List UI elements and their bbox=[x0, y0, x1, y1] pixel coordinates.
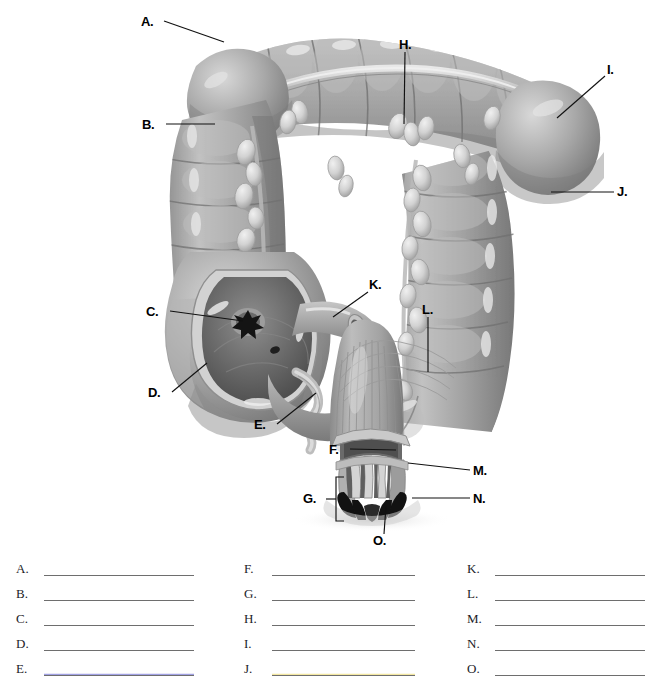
callout-label-F: F. bbox=[329, 443, 339, 456]
answer-letter-F: F. bbox=[244, 562, 253, 576]
answer-blank-M[interactable] bbox=[495, 625, 645, 626]
callout-label-K: K. bbox=[369, 278, 381, 291]
callout-label-G: G. bbox=[303, 492, 316, 505]
callout-label-A: A. bbox=[141, 15, 153, 28]
leader-M bbox=[408, 463, 470, 470]
answer-blank-B[interactable] bbox=[44, 600, 194, 601]
answer-row-E: E. bbox=[10, 662, 220, 687]
cecum bbox=[165, 252, 331, 438]
answer-blank-H[interactable] bbox=[272, 625, 415, 626]
answer-blank-E[interactable] bbox=[44, 675, 194, 676]
worksheet-page: A. B. C. D. E. F. G. H. I. J. K. L. M. N… bbox=[0, 0, 658, 694]
answer-column-2: F. G. H. I. J. bbox=[238, 552, 448, 694]
answer-blank-I[interactable] bbox=[272, 650, 415, 651]
answer-blank-G[interactable] bbox=[272, 600, 415, 601]
answer-letter-K: K. bbox=[467, 562, 480, 576]
answer-letter-H: H. bbox=[244, 612, 257, 626]
callout-label-C: C. bbox=[146, 305, 158, 318]
answer-blank-C[interactable] bbox=[44, 625, 194, 626]
answer-row-O: O. bbox=[461, 662, 658, 687]
answer-letter-C: C. bbox=[16, 612, 28, 626]
answer-letter-D: D. bbox=[16, 637, 29, 651]
answer-column-1: A. B. C. D. E. bbox=[10, 552, 220, 694]
callout-label-I: I. bbox=[607, 63, 614, 76]
answer-row-F: F. bbox=[238, 562, 448, 587]
answer-row-H: H. bbox=[238, 612, 448, 637]
answer-letter-O: O. bbox=[467, 662, 480, 676]
answer-row-D: D. bbox=[10, 637, 220, 662]
answer-letter-M: M. bbox=[467, 612, 482, 626]
answer-row-N: N. bbox=[461, 637, 658, 662]
answer-letter-I: I. bbox=[244, 637, 252, 651]
answer-blank-A[interactable] bbox=[44, 575, 194, 576]
callout-label-L: L. bbox=[422, 303, 433, 316]
answer-letter-A: A. bbox=[16, 562, 29, 576]
answer-blank-D[interactable] bbox=[44, 650, 194, 651]
answer-letter-L: L. bbox=[467, 587, 478, 601]
answer-row-J: J. bbox=[238, 662, 448, 687]
callout-label-J: J. bbox=[617, 185, 627, 198]
answer-row-K: K. bbox=[461, 562, 658, 587]
answer-letter-N: N. bbox=[467, 637, 480, 651]
answer-row-I: I. bbox=[238, 637, 448, 662]
callout-label-D: D. bbox=[148, 386, 160, 399]
answer-blank-L[interactable] bbox=[495, 600, 645, 601]
answer-letter-G: G. bbox=[244, 587, 257, 601]
answer-blank-J[interactable] bbox=[272, 675, 415, 676]
callout-label-H: H. bbox=[399, 38, 411, 51]
answer-blank-F[interactable] bbox=[272, 575, 415, 576]
answer-row-B: B. bbox=[10, 587, 220, 612]
answer-letter-E: E. bbox=[16, 662, 27, 676]
answer-blank-K[interactable] bbox=[495, 575, 645, 576]
callout-label-N: N. bbox=[473, 492, 485, 505]
answer-blank-N[interactable] bbox=[495, 650, 645, 651]
answer-row-M: M. bbox=[461, 612, 658, 637]
callout-label-O: O. bbox=[373, 534, 386, 547]
answer-key-area: A. B. C. D. E. F. bbox=[0, 552, 658, 694]
answer-letter-J: J. bbox=[244, 662, 252, 676]
answer-row-G: G. bbox=[238, 587, 448, 612]
figure-area: A. B. C. D. E. F. G. H. I. J. K. L. M. N… bbox=[0, 0, 658, 552]
leader-A bbox=[164, 21, 224, 42]
answer-column-3: K. L. M. N. O. bbox=[461, 552, 658, 694]
callout-label-E: E. bbox=[254, 418, 266, 431]
answer-row-A: A. bbox=[10, 562, 220, 587]
left-colic-flexure bbox=[494, 80, 604, 204]
answer-blank-O[interactable] bbox=[495, 675, 645, 676]
answer-row-L: L. bbox=[461, 587, 658, 612]
callout-label-M: M. bbox=[473, 464, 487, 477]
callout-label-B: B. bbox=[142, 118, 154, 131]
answer-row-C: C. bbox=[10, 612, 220, 637]
large-intestine-illustration bbox=[0, 0, 658, 552]
answer-letter-B: B. bbox=[16, 587, 28, 601]
